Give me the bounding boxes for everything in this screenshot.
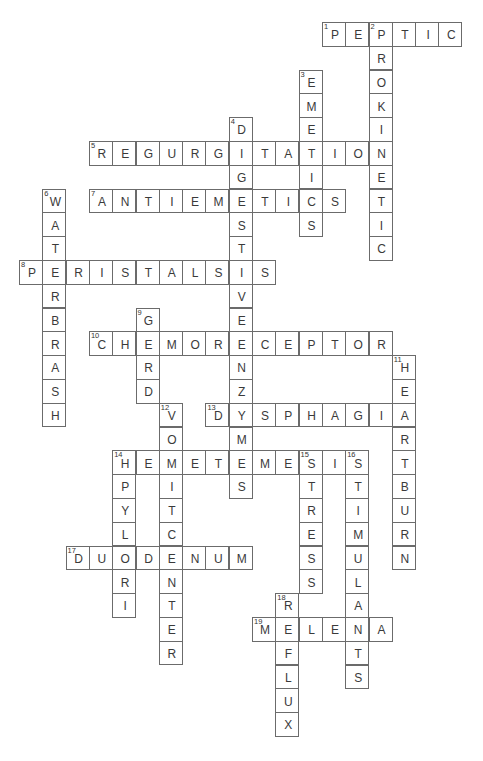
crossword-cell[interactable]: S (229, 474, 253, 499)
crossword-cell[interactable]: I (229, 260, 253, 285)
crossword-cell[interactable]: E (229, 331, 253, 356)
crossword-cell[interactable]: N (392, 546, 416, 571)
crossword-cell[interactable]: R (299, 498, 323, 523)
crossword-cell[interactable]: S (205, 260, 229, 285)
crossword-cell[interactable]: E (229, 189, 253, 214)
crossword-cell[interactable]: 4D (229, 117, 253, 142)
crossword-cell[interactable]: L (112, 522, 136, 547)
crossword-cell[interactable]: E (182, 189, 206, 214)
crossword-cell[interactable]: C (159, 522, 183, 547)
crossword-cell[interactable]: X (275, 712, 299, 737)
crossword-cell[interactable]: C (299, 189, 323, 214)
crossword-cell[interactable]: R (205, 331, 229, 356)
crossword-cell[interactable]: U (205, 546, 229, 571)
crossword-cell[interactable]: T (42, 236, 66, 261)
crossword-cell[interactable]: T (299, 474, 323, 499)
crossword-cell[interactable]: I (345, 498, 369, 523)
crossword-cell[interactable]: I (299, 165, 323, 190)
crossword-cell[interactable]: E (345, 22, 369, 47)
crossword-cell[interactable]: 16S (345, 450, 369, 475)
crossword-cell[interactable]: V (229, 284, 253, 309)
crossword-cell[interactable]: 15S (299, 450, 323, 475)
crossword-cell[interactable]: 12V (159, 403, 183, 428)
crossword-cell[interactable]: T (299, 141, 323, 166)
crossword-cell[interactable]: S (299, 569, 323, 594)
crossword-cell[interactable]: U (89, 546, 113, 571)
crossword-cell[interactable]: 3E (299, 70, 323, 95)
crossword-cell[interactable]: M (299, 93, 323, 118)
crossword-cell[interactable]: A (42, 355, 66, 380)
crossword-cell[interactable]: 18R (275, 593, 299, 618)
crossword-cell[interactable]: R (42, 284, 66, 309)
crossword-cell[interactable]: D (136, 379, 160, 404)
crossword-cell[interactable]: M (252, 450, 276, 475)
crossword-cell[interactable]: E (229, 450, 253, 475)
crossword-cell[interactable]: S (299, 212, 323, 237)
crossword-cell[interactable]: S (299, 546, 323, 571)
crossword-cell[interactable]: 11H (392, 355, 416, 380)
crossword-cell[interactable]: S (345, 665, 369, 690)
crossword-cell[interactable]: G (136, 141, 160, 166)
crossword-cell[interactable]: A (345, 593, 369, 618)
crossword-cell[interactable]: E (136, 331, 160, 356)
crossword-cell[interactable]: E (392, 379, 416, 404)
crossword-cell[interactable]: L (182, 260, 206, 285)
crossword-cell[interactable]: I (89, 260, 113, 285)
crossword-cell[interactable]: 6W (42, 189, 66, 214)
crossword-cell[interactable]: E (112, 141, 136, 166)
crossword-cell[interactable]: 10C (89, 331, 113, 356)
crossword-cell[interactable]: E (229, 308, 253, 333)
crossword-cell[interactable]: M (345, 522, 369, 547)
crossword-cell[interactable]: U (345, 546, 369, 571)
crossword-cell[interactable]: Y (229, 403, 253, 428)
crossword-cell[interactable]: I (275, 189, 299, 214)
crossword-cell[interactable]: T (229, 236, 253, 261)
crossword-cell[interactable]: A (159, 260, 183, 285)
crossword-cell[interactable]: C (252, 331, 276, 356)
crossword-cell[interactable]: 8P (19, 260, 43, 285)
crossword-cell[interactable]: 7A (89, 189, 113, 214)
crossword-cell[interactable]: R (112, 569, 136, 594)
crossword-cell[interactable]: M (229, 546, 253, 571)
crossword-cell[interactable]: B (42, 308, 66, 333)
crossword-cell[interactable]: N (112, 189, 136, 214)
crossword-cell[interactable]: H (42, 403, 66, 428)
crossword-cell[interactable]: F (275, 641, 299, 666)
crossword-cell[interactable]: O (182, 331, 206, 356)
crossword-cell[interactable]: T (159, 498, 183, 523)
crossword-cell[interactable]: T (159, 593, 183, 618)
crossword-cell[interactable]: E (182, 450, 206, 475)
crossword-cell[interactable]: I (322, 450, 346, 475)
crossword-cell[interactable]: E (159, 617, 183, 642)
crossword-cell[interactable]: U (159, 141, 183, 166)
crossword-cell[interactable]: M (159, 450, 183, 475)
crossword-cell[interactable]: E (136, 450, 160, 475)
crossword-cell[interactable]: I (415, 22, 439, 47)
crossword-cell[interactable]: S (112, 260, 136, 285)
crossword-cell[interactable]: O (112, 546, 136, 571)
crossword-cell[interactable]: 19M (252, 617, 276, 642)
crossword-cell[interactable]: E (299, 117, 323, 142)
crossword-cell[interactable]: A (322, 403, 346, 428)
crossword-cell[interactable]: K (369, 93, 393, 118)
crossword-cell[interactable]: 14H (112, 450, 136, 475)
crossword-cell[interactable]: N (159, 569, 183, 594)
crossword-cell[interactable]: E (275, 450, 299, 475)
crossword-cell[interactable]: E (159, 546, 183, 571)
crossword-cell[interactable]: Y (112, 498, 136, 523)
crossword-cell[interactable]: C (438, 22, 462, 47)
crossword-cell[interactable]: 17D (66, 546, 90, 571)
crossword-cell[interactable]: T (252, 189, 276, 214)
crossword-cell[interactable]: I (159, 474, 183, 499)
crossword-cell[interactable]: A (275, 141, 299, 166)
crossword-cell[interactable]: R (42, 331, 66, 356)
crossword-cell[interactable]: L (345, 569, 369, 594)
crossword-cell[interactable]: D (136, 546, 160, 571)
crossword-cell[interactable]: R (392, 427, 416, 452)
crossword-cell[interactable]: M (159, 331, 183, 356)
crossword-cell[interactable]: I (369, 117, 393, 142)
crossword-cell[interactable]: R (369, 46, 393, 71)
crossword-cell[interactable]: I (369, 212, 393, 237)
crossword-cell[interactable]: R (392, 522, 416, 547)
crossword-cell[interactable]: I (229, 141, 253, 166)
